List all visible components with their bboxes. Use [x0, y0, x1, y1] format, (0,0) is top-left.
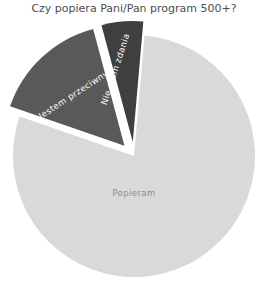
- pie-label-popieram: Popieram: [112, 188, 155, 198]
- pie-chart-canvas: Popieram Jestem przeciwny Nie mam zdania: [0, 0, 268, 296]
- pie-chart-figure: Czy popiera Pani/Pan program 500+? Popie…: [0, 0, 268, 296]
